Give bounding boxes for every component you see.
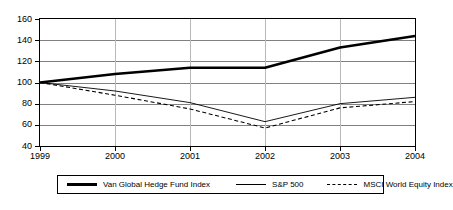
vertical-tick-line [115, 19, 116, 146]
gridline [40, 125, 415, 126]
y-axis-tick-label: 140 [2, 36, 32, 45]
gridline [40, 83, 415, 84]
legend-label: S&P 500 [272, 180, 303, 189]
vertical-tick-line [265, 19, 266, 146]
x-axis-tick-label: 2003 [320, 151, 360, 161]
y-axis-tick-label: 100 [2, 78, 32, 87]
legend-label: MSCI World Equity Index [363, 180, 452, 189]
vertical-tick-line [190, 19, 191, 146]
thick-line-icon [67, 180, 97, 189]
gridline [40, 40, 415, 41]
legend-entry-van-global-hedge-fund-index: Van Global Hedge Fund Index [67, 176, 210, 193]
vertical-tick-line [340, 19, 341, 146]
legend-entry-sp-500: S&P 500 [236, 176, 303, 193]
x-axis-tick-label: 2002 [245, 151, 285, 161]
chart-legend: Van Global Hedge Fund Index S&P 500 MSCI… [57, 175, 384, 194]
x-axis-tick-label: 2001 [170, 151, 210, 161]
x-axis-tick-label: 2004 [395, 151, 435, 161]
y-axis-tick-label: 60 [2, 120, 32, 129]
legend-label: Van Global Hedge Fund Index [103, 180, 210, 189]
plot-area [39, 18, 416, 147]
legend-entry-msci-world-equity-index: MSCI World Equity Index [327, 176, 452, 193]
dashed-line-icon [327, 180, 357, 189]
y-axis-tick-label: 160 [2, 15, 32, 24]
gridline [40, 61, 415, 62]
y-axis-tick-label: 120 [2, 57, 32, 66]
y-axis-tick-label: 40 [2, 142, 32, 151]
x-axis-tick-label: 2000 [95, 151, 135, 161]
y-axis-tick-label: 80 [2, 99, 32, 108]
gridline [40, 104, 415, 105]
thin-line-icon [236, 180, 266, 189]
x-axis-tick-label: 1999 [20, 151, 60, 161]
